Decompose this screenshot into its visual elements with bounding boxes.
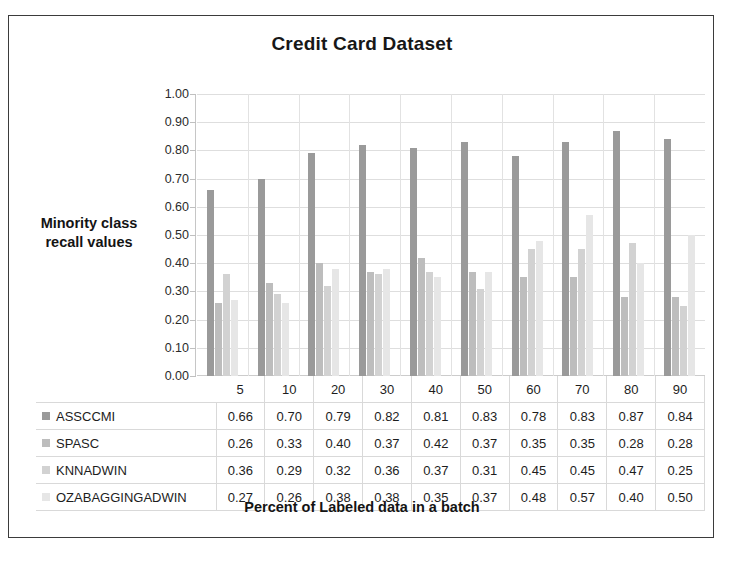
bar <box>223 274 230 376</box>
table-cell: 0.87 <box>607 403 656 430</box>
table-column-header: 5 <box>216 376 265 403</box>
bar <box>426 272 433 376</box>
y-tick-mark <box>190 122 196 123</box>
y-axis-tick-labels: 1.000.900.800.700.600.500.400.300.200.10… <box>147 86 189 376</box>
table-column-header: 90 <box>656 376 705 403</box>
y-tick-mark <box>190 348 196 349</box>
legend-series-label: ASSCCMI <box>56 409 115 424</box>
bar-group <box>299 94 350 376</box>
legend-entry: KNNADWIN <box>36 457 216 484</box>
bar <box>570 277 577 376</box>
table-cell: 0.82 <box>363 403 412 430</box>
table-cell: 0.32 <box>314 457 363 484</box>
y-tick-label: 0.50 <box>147 228 189 242</box>
table-cell: 0.40 <box>314 430 363 457</box>
category-separator <box>603 94 604 376</box>
table-cell: 0.35 <box>558 430 607 457</box>
table-column-header: 20 <box>314 376 363 403</box>
bar <box>461 142 468 376</box>
table-cell: 0.81 <box>411 403 460 430</box>
y-tick-label: 0.90 <box>147 115 189 129</box>
bar <box>231 300 238 376</box>
table-cell: 0.36 <box>363 457 412 484</box>
bar <box>485 272 492 376</box>
bar <box>258 179 265 376</box>
bar <box>418 258 425 376</box>
table-cell: 0.29 <box>265 457 314 484</box>
table-cell: 0.37 <box>411 457 460 484</box>
bar-group <box>451 94 502 376</box>
legend-series-label: KNNADWIN <box>56 463 127 478</box>
table-cell: 0.78 <box>509 403 558 430</box>
y-tick-mark <box>190 207 196 208</box>
bar <box>680 306 687 377</box>
bar-group <box>248 94 299 376</box>
table-cell: 0.28 <box>656 430 705 457</box>
bar <box>520 277 527 376</box>
y-tick-label: 0.20 <box>147 313 189 327</box>
table-cell: 0.35 <box>509 430 558 457</box>
y-tick-label: 0.10 <box>147 341 189 355</box>
y-tick-mark <box>190 235 196 236</box>
bar <box>266 283 273 376</box>
category-separator <box>553 94 554 376</box>
category-separator <box>349 94 350 376</box>
legend-entry: SPASC <box>36 430 216 457</box>
category-separator <box>502 94 503 376</box>
table-row: KNNADWIN0.360.290.320.360.370.310.450.45… <box>36 457 705 484</box>
table-column-header: 70 <box>558 376 607 403</box>
bar <box>383 269 390 376</box>
bar <box>613 131 620 376</box>
legend-entry: ASSCCMI <box>36 403 216 430</box>
bar <box>434 277 441 376</box>
y-tick-mark <box>190 291 196 292</box>
table-column-header: 80 <box>607 376 656 403</box>
table-cell: 0.70 <box>265 403 314 430</box>
y-tick-mark <box>190 179 196 180</box>
legend-series-label: SPASC <box>56 436 99 451</box>
y-tick-label: 0.70 <box>147 172 189 186</box>
table-cell: 0.33 <box>265 430 314 457</box>
chart-figure: Credit Card Dataset Minority class recal… <box>8 15 714 538</box>
bar <box>586 215 593 376</box>
bar-group <box>197 94 248 376</box>
bar <box>536 241 543 376</box>
bar <box>578 249 585 376</box>
bar <box>282 303 289 376</box>
bar <box>207 190 214 376</box>
table-cell: 0.45 <box>509 457 558 484</box>
bar <box>562 142 569 376</box>
bar-group <box>553 94 604 376</box>
table-cell: 0.25 <box>656 457 705 484</box>
plot-area <box>197 94 705 376</box>
bar-group <box>603 94 654 376</box>
table-cell: 0.45 <box>558 457 607 484</box>
table-cell: 0.37 <box>460 430 509 457</box>
category-separator <box>299 94 300 376</box>
table-cell: 0.84 <box>656 403 705 430</box>
bar <box>469 272 476 376</box>
bar <box>477 289 484 376</box>
table-row: SPASC0.260.330.400.370.420.370.350.350.2… <box>36 430 705 457</box>
y-tick-mark <box>190 150 196 151</box>
table-row: ASSCCMI0.660.700.790.820.810.830.780.830… <box>36 403 705 430</box>
y-tick-label: 1.00 <box>147 87 189 101</box>
table-column-header: 10 <box>265 376 314 403</box>
table-column-header: 60 <box>509 376 558 403</box>
table-cell: 0.83 <box>558 403 607 430</box>
y-tick-mark <box>190 94 196 95</box>
legend-swatch-icon <box>42 412 50 420</box>
table-header-row: 5102030405060708090 <box>36 376 705 403</box>
bar <box>688 235 695 376</box>
bar <box>672 297 679 376</box>
table-cell: 0.66 <box>216 403 265 430</box>
table-cell: 0.47 <box>607 457 656 484</box>
category-separator <box>248 94 249 376</box>
bar <box>308 153 315 376</box>
y-tick-label: 0.40 <box>147 256 189 270</box>
bar-group <box>400 94 451 376</box>
table-cell: 0.26 <box>216 430 265 457</box>
bar <box>316 263 323 376</box>
table-corner-cell <box>36 376 216 403</box>
table-cell: 0.37 <box>363 430 412 457</box>
